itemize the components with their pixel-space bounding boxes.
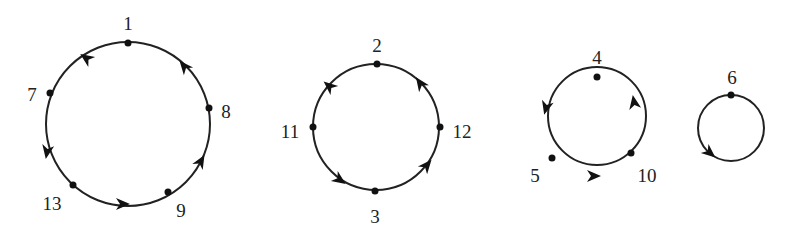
node-label-2: 2 xyxy=(372,35,382,56)
node-9 xyxy=(165,189,172,196)
node-label-9: 9 xyxy=(176,200,186,221)
cycle-4: 6 xyxy=(698,67,764,162)
direction-arrow-icon xyxy=(587,170,601,182)
permutation-cycle-diagram: 17139821131245106 xyxy=(0,0,790,237)
cycle-1: 171398 xyxy=(27,13,231,221)
node-label-10: 10 xyxy=(638,165,657,186)
node-label-8: 8 xyxy=(221,101,231,122)
node-label-3: 3 xyxy=(370,206,380,227)
node-1 xyxy=(125,40,132,47)
node-2 xyxy=(374,61,381,68)
node-10 xyxy=(628,150,635,157)
direction-arrow-icon xyxy=(192,152,209,170)
cycle-3: 4510 xyxy=(530,47,656,186)
node-3 xyxy=(372,188,379,195)
node-label-4: 4 xyxy=(592,47,602,68)
node-8 xyxy=(206,105,213,112)
node-label-13: 13 xyxy=(43,193,62,214)
node-13 xyxy=(70,182,77,189)
node-label-12: 12 xyxy=(453,121,472,142)
direction-arrow-icon xyxy=(116,198,130,210)
node-label-7: 7 xyxy=(27,84,37,105)
node-label-6: 6 xyxy=(727,67,737,88)
direction-arrow-icon xyxy=(627,94,641,110)
node-12 xyxy=(437,124,444,131)
node-5 xyxy=(549,155,556,162)
node-label-1: 1 xyxy=(123,13,133,34)
node-11 xyxy=(310,124,317,131)
cycle-2: 211312 xyxy=(281,35,472,227)
node-label-11: 11 xyxy=(281,121,299,142)
direction-arrow-icon xyxy=(538,100,553,117)
node-4 xyxy=(594,74,601,81)
node-7 xyxy=(47,90,54,97)
node-label-5: 5 xyxy=(530,165,540,186)
node-6 xyxy=(728,92,735,99)
